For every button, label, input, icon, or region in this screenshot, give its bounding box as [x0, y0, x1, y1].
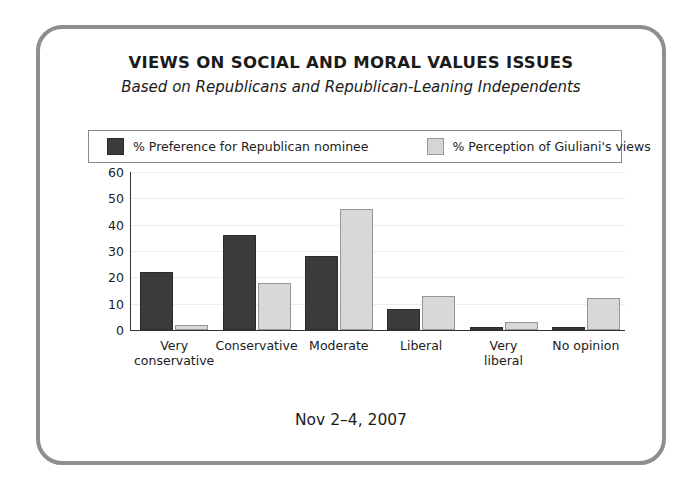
bar-group: Moderate: [305, 172, 373, 330]
bar-group: Veryliberal: [470, 172, 538, 330]
y-axis-tick-label: 60: [108, 165, 124, 180]
y-axis-tick-label: 30: [108, 244, 124, 259]
bar-group: No opinion: [552, 172, 620, 330]
bar-group: Conservative: [223, 172, 291, 330]
x-axis-category-label: No opinion: [531, 339, 641, 354]
bar-preference[interactable]: [552, 327, 585, 330]
bar-perception[interactable]: [258, 283, 291, 330]
y-axis-tick-label: 40: [108, 217, 124, 232]
bar-group: Liberal: [387, 172, 455, 330]
x-axis-category-label-line2: liberal: [449, 354, 559, 369]
date-footer: Nov 2–4, 2007: [40, 411, 662, 429]
bars-layer: VeryconservativeConservativeModerateLibe…: [131, 172, 625, 330]
plot-area: 6050403020100 VeryconservativeConservati…: [130, 172, 625, 331]
x-axis-category-label-line1: No opinion: [531, 339, 641, 354]
bar-perception[interactable]: [587, 298, 620, 330]
bar-perception[interactable]: [175, 325, 208, 330]
y-axis-tick-label: 10: [108, 296, 124, 311]
bar-preference[interactable]: [140, 272, 173, 330]
bar-preference[interactable]: [223, 235, 256, 330]
x-axis-category-label-line2: conservative: [119, 354, 229, 369]
y-axis-tick-label: 50: [108, 191, 124, 206]
bar-perception[interactable]: [505, 322, 538, 330]
bar-preference[interactable]: [387, 309, 420, 330]
bar-group: Veryconservative: [140, 172, 208, 330]
plot-wrap: 6050403020100 VeryconservativeConservati…: [40, 29, 662, 461]
bar-perception[interactable]: [422, 296, 455, 330]
y-axis-tick-label: 0: [116, 323, 124, 338]
y-axis-tick-label: 20: [108, 270, 124, 285]
bar-preference[interactable]: [305, 256, 338, 330]
bar-preference[interactable]: [470, 327, 503, 330]
bar-perception[interactable]: [340, 209, 373, 330]
chart-frame: VIEWS ON SOCIAL AND MORAL VALUES ISSUES …: [36, 25, 666, 465]
